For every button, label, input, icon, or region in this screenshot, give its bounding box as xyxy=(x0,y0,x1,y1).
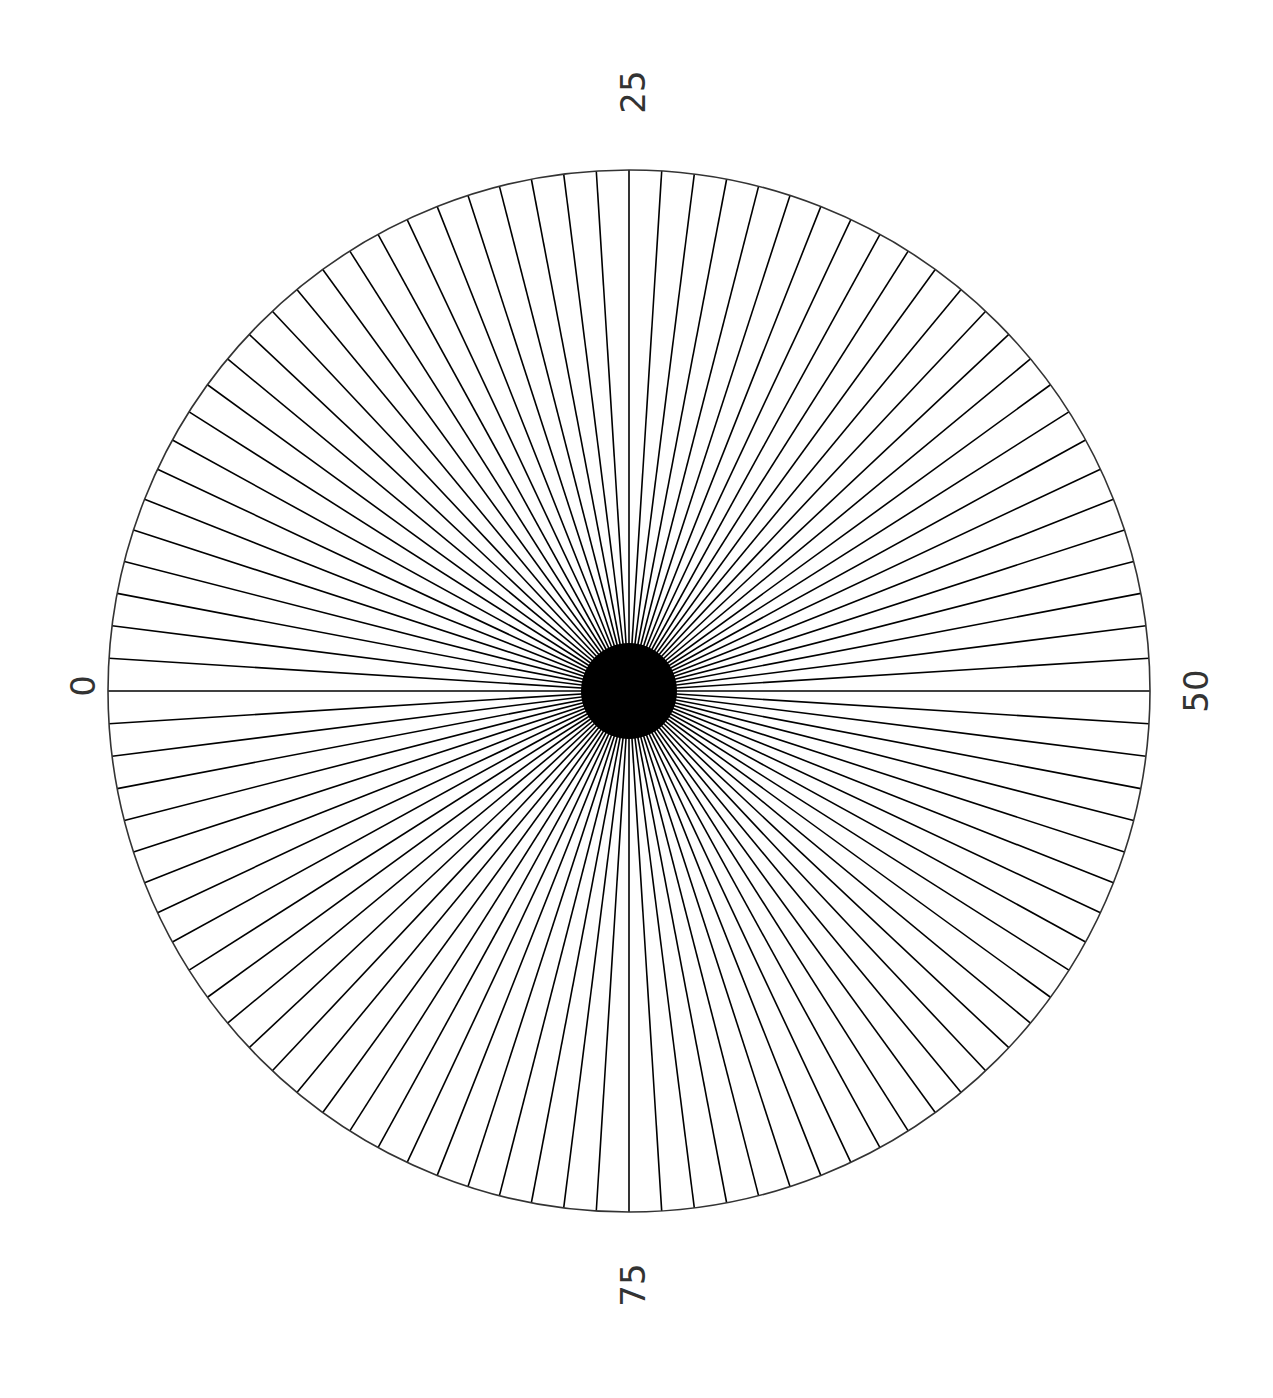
spoke xyxy=(596,691,629,1211)
spoke xyxy=(228,691,629,1023)
spoke xyxy=(629,499,1113,691)
spoke xyxy=(629,691,1149,724)
spoke xyxy=(109,691,629,724)
spoke xyxy=(629,691,759,1196)
spoke xyxy=(629,186,759,691)
spoke xyxy=(629,691,662,1211)
spoke xyxy=(629,691,821,1175)
spoke xyxy=(629,359,1030,691)
tick-label-0: 0 xyxy=(63,675,103,697)
spoke xyxy=(437,207,629,691)
tick-label-25: 25 xyxy=(613,70,653,113)
spoke xyxy=(596,171,629,691)
spoke xyxy=(297,290,629,691)
spoke xyxy=(499,691,629,1196)
spoke xyxy=(629,691,1030,1023)
spoke xyxy=(145,691,629,883)
spoke xyxy=(629,691,1134,821)
tick-label-50: 50 xyxy=(1176,669,1216,712)
spoke xyxy=(629,171,662,691)
spoke xyxy=(629,290,961,691)
spoke xyxy=(629,658,1149,691)
spoke xyxy=(499,186,629,691)
spoke xyxy=(629,691,1113,883)
spoke xyxy=(124,561,629,691)
center-hub xyxy=(581,643,677,739)
spoke xyxy=(228,359,629,691)
spoke xyxy=(437,691,629,1175)
spoke-chart: 0 25 50 75 xyxy=(0,0,1273,1398)
spoke xyxy=(629,561,1134,691)
tick-label-75: 75 xyxy=(613,1263,653,1306)
spoke xyxy=(629,207,821,691)
spoke xyxy=(297,691,629,1092)
spoke xyxy=(629,691,961,1092)
spoke xyxy=(109,658,629,691)
spoke xyxy=(145,499,629,691)
spoke xyxy=(124,691,629,821)
